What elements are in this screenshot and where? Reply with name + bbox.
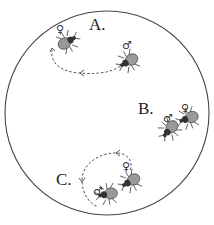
panel-a-label: A. xyxy=(89,15,106,34)
arena-circle xyxy=(5,11,209,215)
female-symbol-icon: ♀ xyxy=(56,23,64,36)
arena-diagram: A. ♀ ♂ B. ♂ ♀ C. ♀ ♂ xyxy=(0,0,214,225)
female-symbol-icon: ♀ xyxy=(122,160,130,173)
male-symbol-icon: ♂ xyxy=(122,39,132,52)
arrow-icon xyxy=(50,48,55,52)
panel-b: B. ♂ ♀ xyxy=(138,99,202,146)
panel-c: C. ♀ ♂ xyxy=(56,150,145,207)
panel-a: A. ♀ ♂ xyxy=(50,15,143,77)
movement-path xyxy=(52,50,120,73)
panel-c-label: C. xyxy=(56,170,72,189)
panel-b-label: B. xyxy=(138,99,154,118)
